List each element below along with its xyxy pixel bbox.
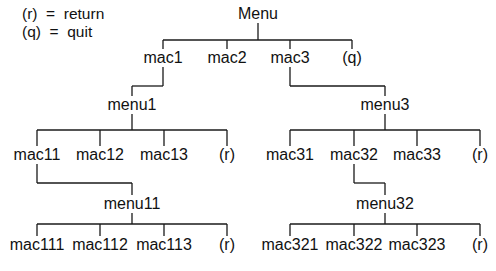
node-mac321: mac321 bbox=[261, 236, 320, 254]
node-menu1: menu1 bbox=[107, 96, 158, 114]
node-mac13: mac13 bbox=[139, 146, 189, 164]
node-mac111: mac111 bbox=[9, 236, 66, 254]
node-menu32: menu32 bbox=[355, 195, 415, 213]
node-mac3: mac3 bbox=[269, 49, 310, 67]
node-mac2: mac2 bbox=[206, 49, 247, 67]
node-mac112: mac112 bbox=[71, 236, 129, 254]
node-r32: (r) bbox=[471, 236, 489, 254]
node-menu11: menu11 bbox=[103, 195, 162, 213]
node-mac32: mac32 bbox=[329, 146, 379, 164]
node-mac323: mac323 bbox=[388, 236, 447, 254]
node-mac11: mac11 bbox=[13, 146, 62, 164]
node-menu3: menu3 bbox=[360, 96, 411, 114]
node-q: (q) bbox=[341, 49, 363, 67]
node-mac12: mac12 bbox=[75, 146, 125, 164]
node-mac33: mac33 bbox=[392, 146, 442, 164]
node-r1: (r) bbox=[218, 146, 236, 164]
node-r3: (r) bbox=[471, 146, 489, 164]
node-mac31: mac31 bbox=[265, 146, 315, 164]
menu-tree-diagram: (r) = return (q) = quit Menumac1mac2mac3… bbox=[0, 0, 496, 271]
legend: (r) = return (q) = quit bbox=[22, 5, 104, 41]
node-menu: Menu bbox=[237, 5, 279, 23]
legend-return: (r) = return bbox=[22, 5, 104, 23]
node-mac322: mac322 bbox=[325, 236, 384, 254]
node-r11: (r) bbox=[218, 236, 236, 254]
node-mac113: mac113 bbox=[135, 236, 193, 254]
legend-quit: (q) = quit bbox=[22, 23, 104, 41]
node-mac1: mac1 bbox=[142, 49, 183, 67]
